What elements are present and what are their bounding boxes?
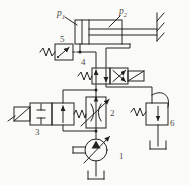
label-2: 2 bbox=[110, 108, 115, 118]
schematic-canvas: p1 p2 5 4 bbox=[0, 0, 189, 185]
junction-dot bbox=[95, 130, 98, 133]
label-3: 3 bbox=[35, 127, 40, 137]
label-6: 6 bbox=[170, 118, 175, 128]
label-4: 4 bbox=[81, 57, 86, 67]
junction-dot bbox=[95, 89, 98, 92]
label-5: 5 bbox=[60, 34, 65, 44]
hydraulic-circuit-diagram: p1 p2 5 4 bbox=[0, 0, 189, 185]
label-1: 1 bbox=[119, 151, 124, 161]
contact-pivot-dot bbox=[57, 56, 59, 58]
